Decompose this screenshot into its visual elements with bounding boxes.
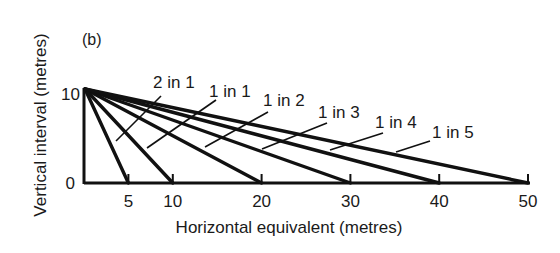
slope-annotation-label: 1 in 4: [375, 113, 417, 132]
x-tick-label: 10: [163, 192, 182, 211]
y-axis-label: Vertical interval (metres): [31, 33, 50, 216]
panel-label: (b): [82, 31, 102, 48]
slope-annotation-label: 1 in 3: [318, 103, 360, 122]
x-tick-label: 20: [252, 192, 271, 211]
slope-annotation-label: 2 in 1: [153, 73, 195, 92]
x-axis-label: Horizontal equivalent (metres): [176, 218, 403, 237]
y-tick-label-0: 0: [66, 174, 75, 193]
slope-gradient-diagram: (b) Vertical interval (metres) Horizonta…: [0, 0, 560, 253]
slope-annotation-label: 1 in 5: [432, 123, 474, 142]
x-tick-label: 40: [430, 192, 449, 211]
x-tick-label: 5: [124, 192, 133, 211]
slope-annotation-label: 1 in 2: [263, 91, 305, 110]
y-tick-label-10: 10: [61, 85, 80, 104]
slope-annotation-label: 1 in 1: [209, 82, 251, 101]
x-tick-label: 30: [341, 192, 360, 211]
x-tick-label: 50: [519, 192, 538, 211]
